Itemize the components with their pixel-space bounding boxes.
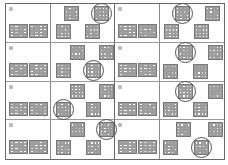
answer-option-grid[interactable] [163, 140, 178, 155]
grid-cell [174, 75, 177, 78]
grid-cell [97, 151, 100, 154]
grid-cell [219, 94, 222, 97]
grid-cell [43, 112, 47, 115]
reference-grid [9, 24, 28, 38]
grid-cell [152, 112, 156, 115]
puzzle-panel [6, 120, 115, 159]
grid-cell [204, 75, 207, 78]
grid-cell [110, 94, 113, 97]
answer-option-grid[interactable] [175, 6, 190, 21]
grid-cell [132, 34, 136, 37]
grid-cell [152, 150, 156, 153]
answer-option-grid[interactable] [208, 122, 223, 137]
grid-cell [204, 112, 207, 115]
answer-option-grid[interactable] [70, 122, 85, 137]
grid-cell [189, 56, 192, 59]
grid-cell [97, 112, 100, 115]
grid-cell [81, 94, 84, 97]
puzzle-panel [6, 4, 115, 43]
reference-grid [118, 24, 137, 38]
grid-cell [186, 17, 189, 20]
reference-grid [9, 140, 28, 154]
answer-option-grid[interactable] [163, 64, 178, 79]
reference-grid [29, 140, 48, 154]
answer-option-grid[interactable] [163, 102, 178, 117]
answer-option-grid[interactable] [64, 6, 79, 21]
answer-option-grid[interactable] [99, 45, 114, 60]
answer-option-grid[interactable] [193, 64, 208, 79]
reference-grid [9, 63, 28, 77]
answer-option-grid[interactable] [94, 6, 109, 21]
grid-cell [132, 150, 136, 153]
answer-option-grid[interactable] [194, 140, 209, 155]
grid-cell [67, 151, 70, 154]
grid-cell [105, 17, 108, 20]
panel-number-marker [9, 7, 13, 11]
grid-cell [174, 151, 177, 154]
answer-option-grid[interactable] [56, 63, 71, 78]
grid-cell [110, 56, 113, 59]
answer-option-grid[interactable] [178, 45, 193, 60]
answer-option-grid[interactable] [70, 45, 85, 60]
grid-cell [132, 73, 136, 76]
panel-number-marker [118, 123, 122, 127]
reference-grid [29, 63, 48, 77]
puzzle-worksheet [5, 3, 225, 160]
reference-grid [118, 63, 137, 77]
answer-option-grid[interactable] [99, 122, 114, 137]
answer-option-grid[interactable] [86, 63, 101, 78]
answer-option-grid[interactable] [86, 102, 101, 117]
grid-cell [23, 73, 27, 76]
grid-cell [205, 35, 208, 38]
answer-option-grid[interactable] [86, 140, 101, 155]
panel-number-marker [118, 46, 122, 50]
grid-cell [219, 56, 222, 59]
reference-grid [138, 24, 157, 38]
panel-divider [159, 4, 160, 42]
grid-cell [67, 74, 70, 77]
puzzle-panel [115, 4, 224, 43]
grid-cell [219, 133, 222, 136]
grid-cell [43, 150, 47, 153]
puzzle-panel [115, 82, 224, 121]
answer-option-grid[interactable] [208, 45, 223, 60]
answer-option-grid[interactable] [85, 24, 100, 39]
reference-grid [118, 140, 137, 154]
answer-option-grid[interactable] [176, 122, 191, 137]
grid-cell [189, 94, 192, 97]
grid-cell [67, 112, 70, 115]
puzzle-panel [6, 43, 115, 82]
answer-option-grid[interactable] [164, 24, 179, 39]
answer-option-grid[interactable] [194, 24, 209, 39]
answer-option-grid[interactable] [205, 6, 220, 21]
panel-divider [50, 120, 51, 159]
panel-number-marker [9, 46, 13, 50]
panel-number-marker [118, 85, 122, 89]
answer-option-grid[interactable] [70, 84, 85, 99]
panel-divider [50, 43, 51, 81]
grid-cell [152, 34, 156, 37]
answer-option-grid[interactable] [56, 24, 71, 39]
grid-cell [81, 56, 84, 59]
grid-cell [81, 133, 84, 136]
grid-cell [75, 17, 78, 20]
reference-grid [29, 24, 48, 38]
reference-grid [9, 102, 28, 116]
reference-grid [138, 140, 157, 154]
answer-option-grid[interactable] [178, 84, 193, 99]
answer-option-grid[interactable] [56, 102, 71, 117]
puzzle-panel [115, 120, 224, 159]
answer-option-grid[interactable] [208, 84, 223, 99]
grid-cell [174, 112, 177, 115]
answer-option-grid[interactable] [193, 102, 208, 117]
grid-cell [23, 150, 27, 153]
grid-cell [43, 34, 47, 37]
answer-option-grid[interactable] [99, 84, 114, 99]
panel-number-marker [9, 85, 13, 89]
panel-divider [159, 120, 160, 159]
reference-grid [138, 102, 157, 116]
panel-divider [50, 82, 51, 120]
answer-option-grid[interactable] [56, 140, 71, 155]
grid-cell [110, 133, 113, 136]
grid-cell [96, 35, 99, 38]
